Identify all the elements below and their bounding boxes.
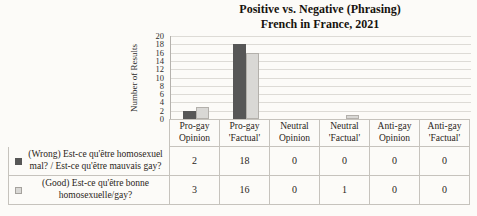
- y-axis-title-text: Number of Results: [129, 44, 139, 112]
- gridline: [171, 102, 471, 103]
- chart-title-line2: French in France, 2021: [170, 17, 470, 32]
- plot-area: [170, 36, 471, 119]
- bar-series1-1: [183, 111, 196, 119]
- data-table: Pro-gay OpinionPro-gay 'Factual'Neutral …: [8, 119, 470, 205]
- legend-marker-series2: [15, 187, 22, 194]
- category-header-1: Pro-gay Opinion: [170, 119, 220, 147]
- figure: Positive vs. Negative (Phrasing) French …: [0, 0, 477, 216]
- chart-title-line1: Positive vs. Negative (Phrasing): [170, 2, 470, 17]
- gridline: [171, 86, 471, 87]
- value-cell-s1-c1: 2: [170, 147, 220, 176]
- gridline: [171, 44, 471, 45]
- value-cell-s1-c5: 0: [370, 147, 420, 176]
- chart-title: Positive vs. Negative (Phrasing) French …: [170, 2, 470, 32]
- value-cell-s2-c6: 0: [420, 176, 470, 205]
- value-cell-s2-c1: 3: [170, 176, 220, 205]
- bar-series2-1: [196, 107, 209, 119]
- category-header-4: Neutral 'Factual': [320, 119, 370, 147]
- value-cell-s2-c2: 16: [220, 176, 270, 205]
- gridline: [171, 111, 471, 112]
- value-cell-s1-c2: 18: [220, 147, 270, 176]
- category-header-3: Neutral Opinion: [270, 119, 320, 147]
- series-label-cell-1: (Wrong) Est-ce qu'être homosexuel mal? /…: [8, 147, 170, 176]
- bar-series2-2: [246, 53, 259, 119]
- category-header-5: Anti-gay Opinion: [370, 119, 420, 147]
- value-cell-s1-c6: 0: [420, 147, 470, 176]
- y-axis-ticks: 20181614121086420: [140, 36, 167, 119]
- value-cell-s2-c4: 1: [320, 176, 370, 205]
- gridline: [171, 69, 471, 70]
- gridline: [171, 94, 471, 95]
- table-corner-placeholder: [8, 119, 170, 147]
- category-header-6: Anti-gay 'Factual': [420, 119, 470, 147]
- gridline: [171, 61, 471, 62]
- bar-series1-2: [233, 44, 246, 119]
- gridline: [171, 53, 471, 54]
- value-cell-s1-c3: 0: [270, 147, 320, 176]
- series-label-text-2: (Good) Est-ce qu'être bonne homosexuelle…: [26, 178, 165, 202]
- gridline: [171, 36, 471, 37]
- series-label-text-1: (Wrong) Est-ce qu'être homosexuel mal? /…: [26, 149, 165, 173]
- value-cell-s1-c4: 0: [320, 147, 370, 176]
- category-header-2: Pro-gay 'Factual': [220, 119, 270, 147]
- gridline: [171, 78, 471, 79]
- series-label-cell-2: (Good) Est-ce qu'être bonne homosexuelle…: [8, 176, 170, 205]
- legend-marker-series1: [15, 158, 22, 165]
- value-cell-s2-c3: 0: [270, 176, 320, 205]
- value-cell-s2-c5: 0: [370, 176, 420, 205]
